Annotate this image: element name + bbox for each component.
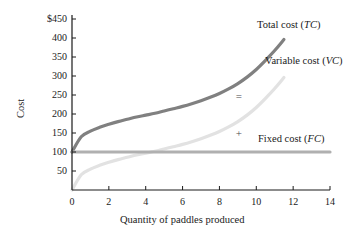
y-axis-title: Cost bbox=[16, 99, 27, 118]
x-tick-label: 2 bbox=[89, 197, 129, 207]
series-curve-tc bbox=[72, 40, 284, 152]
x-tick-label: 10 bbox=[236, 197, 276, 207]
plus-symbol: + bbox=[236, 128, 242, 139]
label-symbol: VC bbox=[326, 55, 339, 66]
axes-group bbox=[72, 15, 330, 190]
y-tick-label: 50 bbox=[57, 166, 67, 176]
x-tick-label: 12 bbox=[273, 197, 313, 207]
y-tick-label: 400 bbox=[52, 33, 67, 43]
x-tick-label: 6 bbox=[163, 197, 203, 207]
cost-curves-figure: 50100150200250300350400$450 02468101214 … bbox=[0, 0, 364, 233]
label-symbol: FC bbox=[308, 133, 321, 144]
series-label-total-cost: Total cost (TC) bbox=[257, 20, 320, 31]
y-tick-label: 250 bbox=[52, 90, 67, 100]
x-tick-label: 4 bbox=[126, 197, 166, 207]
x-tick-label: 0 bbox=[52, 197, 92, 207]
label-symbol: TC bbox=[304, 19, 317, 30]
equals-symbol: = bbox=[236, 91, 242, 102]
y-tick-label: 200 bbox=[52, 109, 67, 119]
label-text-close: ) bbox=[339, 55, 343, 66]
label-text-close: ) bbox=[321, 133, 325, 144]
y-tick-label: 350 bbox=[52, 52, 67, 62]
y-tick-label: 100 bbox=[52, 147, 67, 157]
label-text: Total cost ( bbox=[257, 19, 304, 30]
series-curve-vc bbox=[72, 78, 284, 190]
series-label-fixed-cost: Fixed cost (FC) bbox=[258, 134, 325, 145]
label-text: Variable cost ( bbox=[265, 55, 326, 66]
x-tick-label: 14 bbox=[310, 197, 350, 207]
y-tick-label: $450 bbox=[47, 14, 67, 24]
y-tick-label: 150 bbox=[52, 128, 67, 138]
label-text-close: ) bbox=[317, 19, 321, 30]
x-axis-title: Quantity of paddles produced bbox=[120, 215, 245, 226]
label-text: Fixed cost ( bbox=[258, 133, 308, 144]
x-tick-label: 8 bbox=[199, 197, 239, 207]
series-label-variable-cost: Variable cost (VC) bbox=[265, 56, 343, 67]
y-tick-label: 300 bbox=[52, 71, 67, 81]
